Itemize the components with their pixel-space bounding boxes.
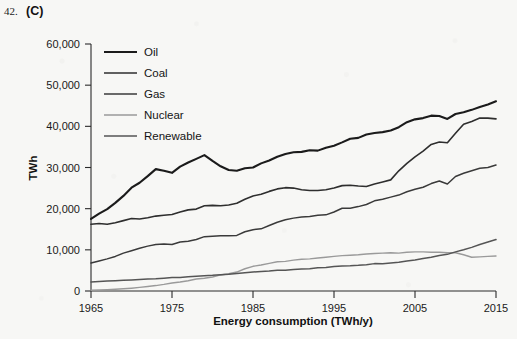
- y-tick-labels: 010,00020,00030,00040,00050,00060,000: [46, 38, 80, 297]
- series-line-nuclear: [91, 252, 496, 290]
- legend-label-nuclear: Nuclear: [144, 109, 184, 121]
- legend-label-oil: Oil: [144, 46, 158, 58]
- x-tick-label: 2005: [403, 302, 427, 314]
- y-axis-title: TWh: [27, 156, 39, 181]
- x-tick-label: 1975: [160, 302, 184, 314]
- legend-label-renewable: Renewable: [144, 130, 202, 142]
- x-tick-label: 1995: [322, 302, 346, 314]
- y-axis-group: 010,00020,00030,00040,00050,00060,000 TW…: [27, 38, 91, 297]
- y-tick-label: 0: [74, 285, 80, 297]
- x-tick-label: 2015: [484, 302, 508, 314]
- x-axis-group: 196519751985199520052015 Energy consumpt…: [79, 291, 508, 327]
- x-axis-title: Energy consumption (TWh/y): [213, 315, 373, 327]
- y-tick-label: 60,000: [46, 38, 80, 50]
- chart-svg: 010,00020,00030,00040,00050,00060,000 TW…: [0, 0, 517, 339]
- line-chart: 010,00020,00030,00040,00050,00060,000 TW…: [0, 0, 517, 339]
- x-tick-labels: 196519751985199520052015: [79, 302, 508, 314]
- y-tick-marks: [85, 44, 91, 291]
- y-tick-label: 10,000: [46, 244, 80, 256]
- legend-label-gas: Gas: [144, 88, 165, 100]
- legend-label-coal: Coal: [144, 67, 168, 79]
- y-tick-label: 50,000: [46, 79, 80, 91]
- x-tick-marks: [91, 291, 496, 298]
- y-tick-label: 20,000: [46, 203, 80, 215]
- y-tick-label: 30,000: [46, 162, 80, 174]
- x-tick-label: 1985: [241, 302, 265, 314]
- y-tick-label: 40,000: [46, 120, 80, 132]
- screenshot-page: 42. (C) 010,00020,00030,00040,00050,0006…: [0, 0, 517, 339]
- chart-legend: OilCoalGasNuclearRenewable: [104, 46, 202, 142]
- x-tick-label: 1965: [79, 302, 103, 314]
- series-line-gas: [91, 165, 496, 263]
